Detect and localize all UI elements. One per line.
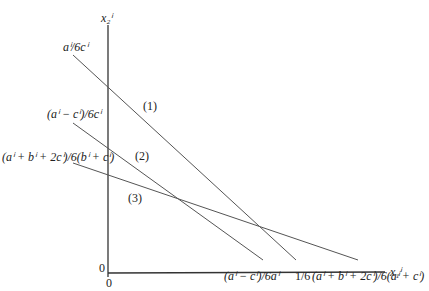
line-label-2: (2) [135,150,149,162]
x-intercept-line-3: (aⁱ + bⁱ + 2cⁱ)/6(aⁱ + cⁱ) [312,270,424,282]
y-intercept-line-3: (aⁱ + bⁱ + 2cⁱ)/6(bⁱ + cⁱ) [2,151,114,163]
line-label-1: (1) [143,100,157,112]
origin-y-label: 0 [99,262,105,274]
line-3 [73,163,358,260]
y-intercept-line-1: aⁱ/6cⁱ [63,41,88,53]
x-intercept-line-1: 1/6 [295,270,310,282]
line-label-3: (3) [128,192,142,204]
y-axis-label: x₂ⁱ [101,12,113,24]
line-2 [73,123,263,260]
y-intercept-line-2: (aⁱ − cⁱ)/6cⁱ [47,108,101,120]
origin-x-label: 0 [106,277,112,289]
x-intercept-line-2: (aⁱ − cⁱ)/6aⁱ [224,270,279,282]
